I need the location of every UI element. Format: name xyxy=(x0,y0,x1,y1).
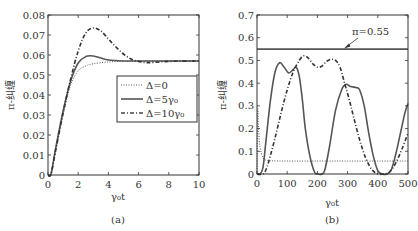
panel-a-caption: (a) xyxy=(111,214,125,225)
x-tick-label: 500 xyxy=(398,178,417,189)
panel-a-legend: Δ=0 Δ=5γ₀ Δ=10γ₀ xyxy=(117,76,197,122)
panel-b: 010020030040050000.10.20.30.40.50.60.7 π… xyxy=(216,10,418,226)
y-tick-label: 0.5 xyxy=(238,55,254,66)
y-tick-label: 0.08 xyxy=(23,10,45,21)
y-tick-label: 0.02 xyxy=(23,130,45,141)
panel-a: 024681000.010.020.030.040.050.060.070.08… xyxy=(4,10,205,226)
series-line-dashdot xyxy=(257,56,408,175)
x-tick-label: 100 xyxy=(278,178,297,189)
legend-label-delta0: Δ=0 xyxy=(146,80,168,91)
panel-a-xlabel: γ₀t xyxy=(111,191,125,202)
y-tick-label: 0.4 xyxy=(238,78,254,89)
annotation-pi-label: π=0.55 xyxy=(352,26,389,37)
x-tick-label: 200 xyxy=(308,178,327,189)
y-tick-label: 0 xyxy=(248,169,254,180)
x-tick-label: 4 xyxy=(105,179,111,190)
panel-b-series xyxy=(257,49,408,174)
x-tick-label: 300 xyxy=(338,178,357,189)
x-tick-label: 2 xyxy=(75,179,81,190)
x-tick-label: 400 xyxy=(368,178,387,189)
annotation-pi: π=0.55 xyxy=(344,26,389,49)
panel-b-xlabel: γ₀t xyxy=(325,197,339,208)
x-tick-label: 0 xyxy=(45,179,51,190)
panel-b-frame xyxy=(257,15,408,174)
y-tick-label: 0.03 xyxy=(23,110,45,121)
y-tick-label: 0.2 xyxy=(238,123,254,134)
panel-b-ylabel: π-纠缠 xyxy=(216,80,228,110)
y-tick-label: 0.1 xyxy=(238,146,254,157)
legend-label-delta10: Δ=10γ₀ xyxy=(146,108,184,119)
x-tick-label: 0 xyxy=(254,178,260,189)
y-tick-label: 0 xyxy=(39,170,45,181)
figure: 024681000.010.020.030.040.050.060.070.08… xyxy=(0,0,418,231)
x-tick-label: 8 xyxy=(166,179,172,190)
y-tick-label: 0.06 xyxy=(23,50,45,61)
y-tick-label: 0.3 xyxy=(238,100,254,111)
legend-label-delta5: Δ=5γ₀ xyxy=(146,94,178,105)
y-tick-label: 0.05 xyxy=(23,70,45,81)
y-tick-label: 0.01 xyxy=(23,150,45,161)
y-tick-label: 0.6 xyxy=(238,32,254,43)
x-tick-label: 6 xyxy=(135,179,141,190)
panel-b-caption: (b) xyxy=(325,214,339,225)
y-tick-label: 0.04 xyxy=(23,90,45,101)
y-tick-label: 0.07 xyxy=(23,30,45,41)
y-tick-label: 0.7 xyxy=(238,10,254,21)
x-tick-label: 10 xyxy=(193,179,206,190)
panel-b-ticks: 010020030040050000.10.20.30.40.50.60.7 xyxy=(238,10,417,190)
panel-a-ylabel: π-纠缠 xyxy=(4,80,16,110)
